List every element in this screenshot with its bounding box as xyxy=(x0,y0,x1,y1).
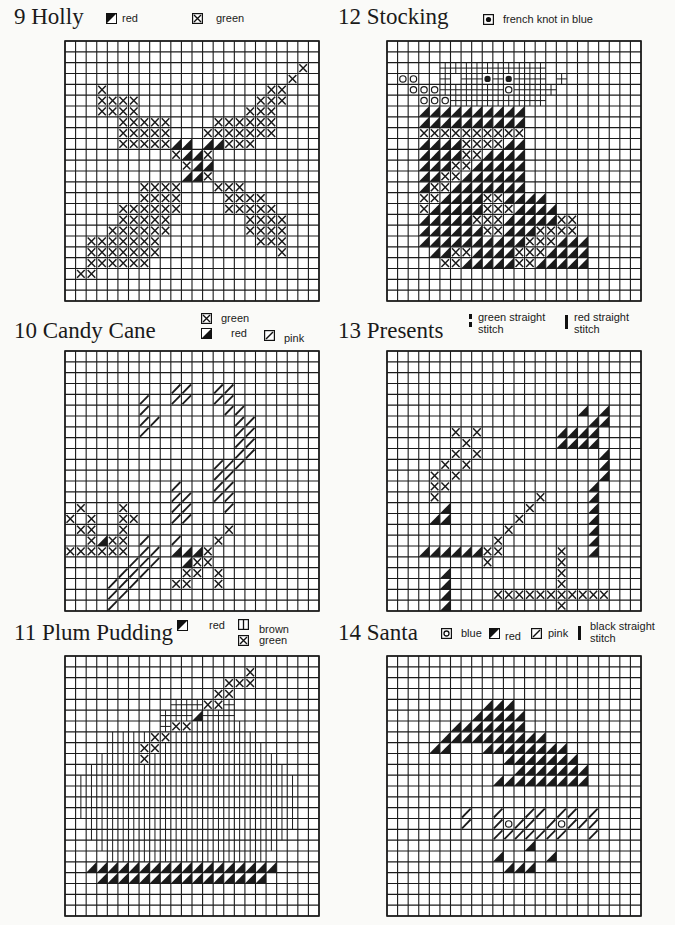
panel-title: 13 Presents xyxy=(338,318,443,344)
legend-item: brown xyxy=(238,618,289,630)
legend-label: green xyxy=(221,312,249,324)
pattern-grid-santa xyxy=(386,655,642,917)
legend-item: green xyxy=(192,12,244,24)
pattern-grid-stocking xyxy=(386,40,642,302)
legend-item: red xyxy=(201,327,247,339)
legend-label: blue xyxy=(461,627,482,639)
pattern-grid-candy-cane xyxy=(64,350,320,612)
legend-item: red xyxy=(489,627,521,639)
legend-item: red xyxy=(106,12,138,24)
green-cross-icon xyxy=(201,313,212,324)
red-half-fill-icon xyxy=(489,628,500,639)
panel-title: 12 Stocking xyxy=(338,4,449,30)
legend-item: red straight stitch xyxy=(564,311,654,335)
french-knot-icon xyxy=(483,14,494,25)
legend-item: red xyxy=(177,619,225,631)
brown-vertical-icon xyxy=(238,619,249,630)
legend-item: green straight stitch xyxy=(468,311,553,335)
legend-label: green straight stitch xyxy=(478,311,553,335)
panel-title: 14 Santa xyxy=(338,620,418,646)
legend-label: green xyxy=(216,12,244,24)
pink-diagonal-icon xyxy=(264,330,275,341)
legend-item: green xyxy=(201,312,249,324)
pattern-grid-holly xyxy=(64,40,320,302)
legend-item: black straight stitch xyxy=(577,620,670,644)
green-cross-icon xyxy=(238,635,249,646)
legend-label: red xyxy=(505,630,521,642)
panel-title: 9 Holly xyxy=(14,4,84,30)
panel-title: 10 Candy Cane xyxy=(14,318,156,344)
black-straight-stitch-icon xyxy=(577,626,582,642)
legend-label: red xyxy=(122,12,138,24)
pattern-grid-plum-pudding xyxy=(64,655,320,917)
legend-item: pink xyxy=(531,627,568,639)
red-straight-stitch-icon xyxy=(564,315,569,331)
legend-item: blue xyxy=(441,627,482,639)
legend-item: french knot in blue xyxy=(483,13,593,25)
panel-title: 11 Plum Pudding xyxy=(14,620,173,646)
green-cross-icon xyxy=(192,13,203,24)
legend-label: red xyxy=(231,327,247,339)
stitch-french-knot xyxy=(484,76,490,82)
legend-label: pink xyxy=(284,332,304,344)
stitch-french-knot xyxy=(506,76,512,82)
blue-circle-icon xyxy=(441,628,452,639)
red-half-fill-icon xyxy=(177,620,188,631)
legend-item: pink xyxy=(264,329,304,341)
green-dashed-stitch-icon xyxy=(468,314,473,330)
legend-label: black straight stitch xyxy=(590,620,670,644)
red-half-fill-icon xyxy=(201,328,212,339)
red-half-fill-icon xyxy=(106,13,117,24)
legend-label: red straight stitch xyxy=(574,311,654,335)
legend-label: red xyxy=(209,619,225,631)
legend-label: french knot in blue xyxy=(503,13,593,25)
legend-label: pink xyxy=(548,627,568,639)
legend-item: green xyxy=(238,634,287,646)
legend-label: green xyxy=(259,634,287,646)
pattern-grid-presents xyxy=(386,350,642,612)
pink-diagonal-icon xyxy=(531,628,542,639)
